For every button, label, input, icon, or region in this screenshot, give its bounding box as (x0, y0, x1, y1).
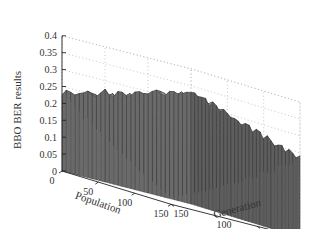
surface-skirt-population-0 (92, 95, 96, 180)
generation-tick-label: 100 (217, 219, 232, 229)
surface-skirt-generation-0 (278, 145, 282, 229)
surface-skirt-population-0 (157, 90, 161, 196)
surface-skirt-population-0 (135, 92, 139, 191)
surface-skirt-population-0 (79, 93, 83, 177)
surface-skirt-generation-0 (224, 109, 228, 215)
z-tick-label: 0.1 (45, 132, 58, 143)
surface-skirt-population-0 (122, 92, 126, 187)
surface-skirt-population-0 (178, 94, 182, 202)
surface-skirt-generation-0 (289, 150, 293, 229)
surface-skirt-population-0 (96, 93, 100, 181)
surface-skirt-population-0 (62, 90, 66, 172)
surface-skirt-population-0 (187, 92, 191, 204)
surface-skirt-generation-0 (282, 145, 286, 229)
surface-skirt-population-0 (170, 91, 174, 199)
surface-skirt-generation-0 (206, 98, 210, 209)
z-axis-label: BBO BER results (11, 71, 23, 149)
surface-skirt-population-0 (174, 92, 178, 201)
surface-skirt-generation-0 (264, 136, 268, 228)
surface-skirt-population-0 (109, 95, 113, 184)
z-tick-label: 0.05 (40, 149, 58, 160)
surface-skirt-population-0 (165, 91, 169, 198)
surface-skirt-population-0 (101, 89, 105, 182)
surface-plot: 00.050.10.150.20.250.30.350.405010015005… (0, 0, 330, 229)
z-tick-label: 0.15 (40, 115, 58, 126)
surface-skirt-generation-0 (293, 153, 297, 229)
surface-skirt-generation-0 (213, 102, 217, 212)
surface-skirt-generation-0 (220, 109, 224, 214)
surface-skirt-population-0 (131, 92, 135, 190)
surface-skirt-generation-0 (267, 136, 271, 229)
surface-skirt-generation-0 (286, 150, 290, 229)
surface-skirt-generation-0 (227, 114, 231, 217)
surface-skirt-population-0 (148, 91, 152, 194)
surface-skirt-generation-0 (202, 97, 206, 208)
surface-skirt-population-0 (66, 90, 70, 173)
surface-skirt-generation-0 (209, 102, 213, 211)
surface-skirt-generation-0 (271, 141, 275, 229)
surface-skirt-population-0 (127, 96, 131, 189)
population-tick (95, 182, 98, 184)
surface-skirt-population-0 (88, 91, 92, 179)
surface-skirt-population-0 (144, 94, 148, 193)
surface-skirt-population-0 (118, 91, 122, 186)
z-tick-label: 0.4 (45, 30, 58, 41)
surface-skirt-generation-0 (216, 106, 220, 213)
z-tick-label: 0.3 (45, 64, 58, 75)
surface-skirt-population-0 (71, 92, 75, 174)
population-tick-label: 0 (50, 175, 55, 186)
population-tick-label: 150 (154, 208, 169, 219)
surface-skirt-population-0 (161, 94, 165, 197)
surface-skirt-generation-0 (198, 97, 202, 207)
surface-skirt-generation-0 (275, 145, 279, 229)
z-tick-label: 0.2 (45, 98, 58, 109)
surface-skirt-population-0 (139, 92, 143, 192)
surface-skirt-population-0 (105, 89, 109, 183)
x-axis-label: Population (74, 189, 123, 216)
population-tick (132, 193, 135, 195)
surface-skirt-population-0 (114, 91, 118, 185)
surface-skirt-generation-0 (296, 156, 300, 229)
population-tick (168, 204, 171, 206)
surface-skirt-population-0 (182, 92, 186, 203)
surface-skirt-generation-0 (256, 129, 260, 225)
surface-skirt-population-0 (84, 91, 88, 177)
surface-skirt-generation-0 (191, 92, 195, 205)
z-tick-label: 0.35 (40, 47, 58, 58)
surface-skirt-generation-0 (260, 132, 264, 226)
population-tick (59, 171, 62, 173)
generation-tick-label: 150 (174, 208, 189, 219)
surface-skirt-population-0 (75, 94, 79, 176)
z-tick-label: 0.25 (40, 81, 58, 92)
surface-skirt-population-0 (152, 90, 156, 195)
surface-skirt-generation-0 (195, 93, 199, 206)
